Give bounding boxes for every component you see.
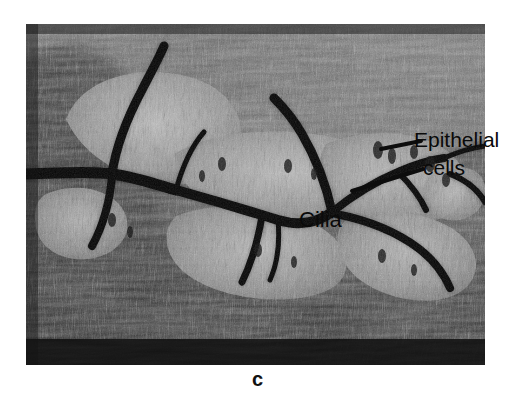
micrograph-image <box>26 24 485 365</box>
panel-letter-text: c <box>252 368 263 390</box>
figure-root: Epithelial cells Cilia c <box>0 0 519 409</box>
panel-letter: c <box>0 369 519 389</box>
